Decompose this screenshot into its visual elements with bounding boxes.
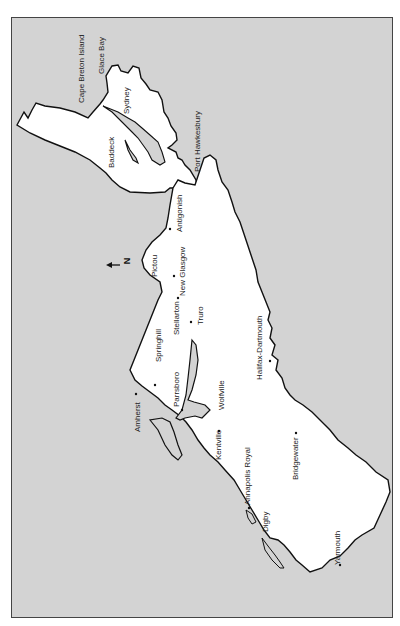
label-baddeck: Baddeck <box>108 137 116 168</box>
label-new-glasgow: New Glasgow <box>179 247 187 296</box>
chignecto-bay <box>150 418 182 460</box>
label-halifax-dartmouth: Halifax-Dartmouth <box>256 316 264 380</box>
label-bridgewater: Bridgewater <box>292 437 300 480</box>
label-yarmouth: Yarmouth <box>334 531 342 565</box>
label-port-hawkesbury: Port Hawkesbury <box>194 111 202 172</box>
label-wolfville: Wolfville <box>218 380 226 410</box>
label-springhill: Springhill <box>155 329 163 362</box>
label-truro: Truro <box>197 306 205 325</box>
label-glace-bay: Glace Bay <box>98 37 106 74</box>
north-arrow: N <box>104 257 134 269</box>
label-pictou: Pictou <box>151 255 159 277</box>
north-label: N <box>122 258 132 265</box>
label-annapolis-royal: Annapolis Royal <box>244 447 252 505</box>
label-digby: Digby <box>262 512 270 532</box>
label-parrsboro: Parrsboro <box>173 372 181 407</box>
label-kentville: Kentville <box>215 430 223 460</box>
label-sydney: Sydney <box>123 87 131 114</box>
label-stellarton: Stellarton <box>173 301 181 335</box>
label-amherst: Amherst <box>134 402 142 432</box>
cape-breton-land <box>17 65 198 193</box>
label-cape-breton-island: Cape Breton Island <box>78 35 86 104</box>
label-antigonish: Antigonish <box>176 195 184 232</box>
